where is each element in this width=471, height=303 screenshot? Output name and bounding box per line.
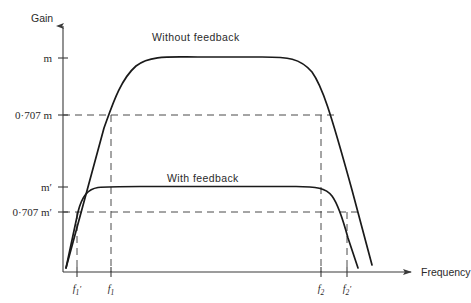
label-with-feedback: With feedback (167, 172, 239, 184)
y-label-m-prime: m′ (41, 181, 52, 193)
x-label-f2-prime: f2′ (343, 283, 353, 297)
x-label-f2-sub: 2 (321, 288, 325, 297)
x-label-f1-prime-mark: ′ (79, 284, 82, 294)
x-label-f2: f2 (318, 283, 325, 297)
y-axis-title: Gain (31, 12, 53, 24)
x-axis-title: Frequency (421, 266, 471, 278)
y-label-half-power-m-prime: 0·707 m′ (13, 206, 52, 218)
curve-with-feedback (66, 187, 358, 269)
chart-canvas: Gain Frequency Without feedback With fee… (0, 0, 471, 303)
x-label-f2-prime-mark: ′ (349, 284, 352, 294)
y-label-m: m (43, 52, 52, 64)
curve-without-feedback (66, 57, 372, 268)
y-label-half-power-m: 0·707 m (15, 109, 52, 121)
label-without-feedback: Without feedback (152, 31, 240, 43)
x-label-f1-prime: f1′ (73, 283, 83, 297)
frequency-response-figure: Gain Frequency Without feedback With fee… (0, 0, 471, 303)
x-label-f1-sub: 1 (111, 288, 115, 297)
x-label-f1: f1 (108, 283, 115, 297)
